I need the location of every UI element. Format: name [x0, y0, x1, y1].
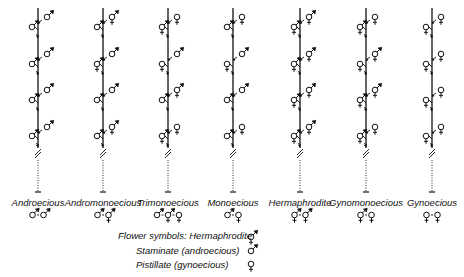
summary-staminate-icon	[41, 208, 51, 218]
flower-staminate-icon	[109, 83, 119, 93]
flower-pistillate-icon	[174, 124, 180, 135]
flower-staminate-icon	[44, 120, 54, 130]
flower-staminate-icon	[44, 47, 54, 57]
flower-staminate-icon	[94, 129, 104, 139]
flower-pistillate-icon	[423, 24, 429, 35]
summary-staminate-icon	[30, 208, 40, 218]
flower-pistillate-icon	[159, 61, 165, 72]
flower-hermaphrodite-icon	[306, 83, 316, 98]
flower-pistillate-icon	[438, 124, 444, 135]
flower-pistillate-icon	[174, 14, 180, 25]
flower-hermaphrodite-icon	[357, 20, 367, 35]
flower-pistillate-icon	[423, 133, 429, 144]
flower-hermaphrodite-icon	[109, 10, 119, 25]
flower-staminate-icon	[224, 20, 234, 30]
flower-staminate-icon	[159, 93, 169, 103]
label-monoecious: Monoecious	[207, 197, 258, 208]
flower-staminate-icon	[44, 10, 54, 20]
flower-staminate-icon	[174, 47, 184, 57]
flower-pistillate-icon	[239, 14, 245, 25]
flower-staminate-icon	[29, 93, 39, 103]
flower-pistillate-icon	[438, 51, 444, 62]
flower-hermaphrodite-icon	[291, 57, 301, 72]
flower-pistillate-icon	[372, 124, 378, 135]
flower-pistillate-icon	[224, 61, 230, 72]
legend-staminate-icon	[248, 244, 258, 254]
flower-hermaphrodite-icon	[291, 93, 301, 108]
flower-hermaphrodite-icon	[159, 129, 169, 144]
flower-hermaphrodite-icon	[357, 129, 367, 144]
flower-staminate-icon	[29, 129, 39, 139]
flower-pistillate-icon	[239, 124, 245, 135]
summary-hermaphrodite-icon	[292, 208, 302, 223]
legend-title-hermaphrodite: Flower symbols: Hermaphrodite	[118, 230, 252, 241]
stem-trimonoecious	[162, 8, 175, 215]
stem-gynoecious	[429, 8, 436, 215]
summary-staminate-icon	[225, 208, 235, 218]
flower-hermaphrodite-icon	[174, 83, 184, 98]
flower-pistillate-icon	[372, 14, 378, 25]
flower-staminate-icon	[44, 83, 54, 93]
label-gynoecious: Gynoecious	[407, 197, 457, 208]
label-gynomonoecious: Gynomonoecious	[329, 197, 403, 208]
flower-staminate-icon	[29, 20, 39, 30]
legend-pistillate: Pistillate (gynoecious)	[136, 259, 228, 270]
flower-staminate-icon	[29, 57, 39, 67]
summary-staminate-icon	[154, 208, 164, 218]
summary-pistillate-icon	[424, 212, 430, 223]
flower-staminate-icon	[224, 93, 234, 103]
flower-hermaphrodite-icon	[109, 120, 119, 135]
flower-pistillate-icon	[423, 61, 429, 72]
flower-staminate-icon	[224, 129, 234, 139]
summary-staminate-icon	[95, 208, 105, 218]
flower-hermaphrodite-icon	[306, 10, 316, 25]
flower-hermaphrodite-icon	[291, 129, 301, 144]
summary-pistillate-icon	[236, 212, 242, 223]
flower-hermaphrodite-icon	[306, 120, 316, 135]
flower-hermaphrodite-icon	[306, 47, 316, 62]
flower-staminate-icon	[94, 20, 104, 30]
label-andromonoecious: Andromonoecious	[65, 197, 142, 208]
summary-hermaphrodite-icon	[358, 208, 368, 223]
stem-monoecious	[230, 8, 237, 215]
flower-hermaphrodite-icon	[159, 20, 169, 35]
legend-pistillate-icon	[248, 261, 254, 272]
stem-andromonoecious	[100, 8, 107, 215]
flower-staminate-icon	[109, 47, 119, 57]
summary-hermaphrodite-icon	[106, 208, 116, 223]
flower-hermaphrodite-icon	[291, 20, 301, 35]
label-trimonoecious: Trimonoecious	[137, 197, 199, 208]
summary-pistillate-icon	[369, 212, 375, 223]
flower-pistillate-icon	[423, 97, 429, 108]
stem-hermaphrodite	[297, 8, 304, 215]
flower-staminate-icon	[94, 93, 104, 103]
flower-hermaphrodite-icon	[357, 93, 367, 108]
flower-pistillate-icon	[438, 87, 444, 98]
flower-hermaphrodite-icon	[94, 57, 104, 72]
summary-pistillate-icon	[435, 212, 441, 223]
legend-staminate: Staminate (androecious)	[136, 245, 240, 256]
label-androecious: Androecious	[12, 197, 65, 208]
stem-gynomonoecious	[363, 8, 370, 215]
flower-staminate-icon	[239, 83, 249, 93]
summary-hermaphrodite-icon	[165, 208, 175, 223]
summary-pistillate-icon	[176, 212, 182, 223]
flower-pistillate-icon	[357, 61, 363, 72]
flower-hermaphrodite-icon	[372, 47, 382, 62]
stem-androecious	[35, 8, 42, 215]
summary-hermaphrodite-icon	[303, 208, 313, 223]
flower-pistillate-icon	[438, 14, 444, 25]
flower-hermaphrodite-icon	[372, 83, 382, 98]
label-hermaphrodite: Hermaphrodite	[269, 197, 332, 208]
flower-staminate-icon	[239, 47, 249, 57]
